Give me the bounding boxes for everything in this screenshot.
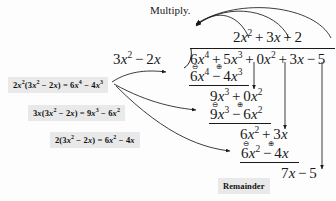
quotient-term-1: 2x2	[233, 29, 253, 45]
dividend-term-3: 0x2	[256, 51, 276, 67]
remainder-expression: 7x−5	[281, 165, 317, 182]
subtraction-rule-3	[240, 162, 299, 163]
product-row-1: 6x4−4x3	[190, 68, 243, 85]
quotient-op-1: +	[253, 29, 267, 45]
callout-step-3: 2(3x2 − 2x) = 6x2 − 4x	[50, 132, 140, 148]
subtraction-rule-2	[209, 123, 271, 124]
quotient-term-3: 2	[294, 29, 302, 45]
remainder-label: Remainder	[218, 178, 270, 194]
quotient-op-2: +	[281, 29, 295, 45]
quotient-expression: 2x2+3x+2	[233, 29, 302, 46]
dividend-term-4: 3x	[290, 51, 305, 67]
subtraction-rule-1	[189, 85, 249, 86]
dividend-term-5: 5	[318, 51, 326, 67]
callout-step-1: 2x2(3x2 − 2x) = 6x4 − 4x3	[8, 77, 108, 93]
callout-step-2: 3x(3x2 − 2x) = 9x3 − 6x2	[28, 105, 125, 121]
polynomial-long-division-figure: Multiply. 2x2+3x+2 3x2−2x 6x4+5x3+0x2+3x…	[0, 0, 336, 201]
quotient-term-2: 3x	[266, 29, 281, 45]
product-row-3: 6x2−4x	[241, 145, 289, 162]
product-row-2: 9x3−6x2	[210, 106, 263, 123]
dividend-term-2: 5x3	[223, 51, 243, 67]
division-bar	[190, 48, 335, 49]
divisor-expression: 3x2−2x	[113, 51, 161, 68]
multiply-annotation: Multiply.	[150, 4, 191, 16]
dividend-expression: 6x4+5x3+0x2+3x−5	[190, 51, 326, 68]
